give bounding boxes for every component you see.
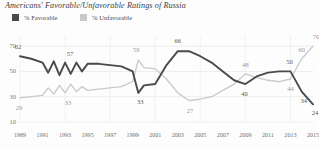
data-label-favorable-57: 57 — [62, 50, 78, 57]
y-tick-30: 30 — [2, 93, 16, 100]
data-label-unfavorable-29: 29 — [11, 104, 27, 111]
data-label-unfavorable-60: 60 — [294, 46, 310, 53]
chart-container: Americans' Favorable/Unfavorable Ratings… — [0, 0, 319, 149]
legend-swatch-favorable — [12, 14, 19, 21]
legend-label-unfavorable: % Unfavorable — [92, 14, 132, 21]
x-tick-2011: 2011 — [256, 132, 280, 138]
data-label-unfavorable-33: 33 — [60, 99, 76, 106]
x-tick-2003: 2003 — [166, 132, 190, 138]
data-label-unfavorable-27: 27 — [182, 107, 198, 114]
x-tick-2009: 2009 — [233, 132, 257, 138]
data-label-favorable-50: 50 — [281, 58, 297, 65]
x-tick-2001: 2001 — [143, 132, 167, 138]
legend-label-favorable: % Favorable — [24, 14, 58, 21]
data-label-unfavorable-59: 59 — [128, 46, 144, 53]
x-tick-1989: 1989 — [8, 132, 32, 138]
data-label-favorable-33: 33 — [132, 98, 148, 105]
data-label-unfavorable-48: 48 — [237, 61, 253, 68]
x-tick-1991: 1991 — [31, 132, 55, 138]
data-label-unfavorable-70: 70 — [308, 33, 319, 40]
legend-swatch-unfavorable — [80, 14, 87, 21]
data-label-favorable-40: 40 — [236, 90, 252, 97]
x-tick-2015: 2015 — [301, 132, 319, 138]
data-label-favorable-34: 34 — [296, 97, 312, 104]
legend-item-favorable: % Favorable — [12, 14, 58, 21]
x-tick-1993: 1993 — [53, 132, 77, 138]
data-label-favorable-66: 66 — [170, 37, 186, 44]
legend-item-unfavorable: % Unfavorable — [80, 14, 132, 21]
x-tick-1999: 1999 — [121, 132, 145, 138]
data-label-unfavorable-44: 44 — [282, 85, 298, 92]
x-tick-2005: 2005 — [188, 132, 212, 138]
y-tick-50: 50 — [2, 67, 16, 74]
y-tick-10: 10 — [2, 118, 16, 125]
plot-area — [0, 30, 319, 125]
chart-title: Americans' Favorable/Unfavorable Ratings… — [5, 1, 186, 10]
data-label-favorable-24: 24 — [307, 109, 319, 116]
x-tick-2013: 2013 — [278, 132, 302, 138]
x-tick-1997: 1997 — [98, 132, 122, 138]
x-tick-2007: 2007 — [211, 132, 235, 138]
data-label-favorable-62: 62 — [10, 43, 26, 50]
line-favorable — [20, 51, 313, 104]
x-tick-1995: 1995 — [76, 132, 100, 138]
chart-svg — [0, 30, 319, 125]
